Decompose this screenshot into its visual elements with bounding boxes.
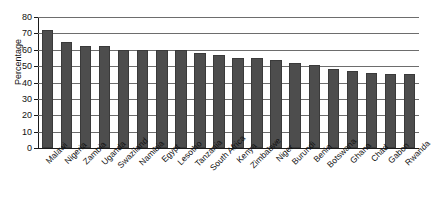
bar: [385, 74, 396, 148]
bar: [309, 65, 320, 149]
y-axis-tick-labels: 01020304050607080: [0, 17, 38, 148]
y-tick-label-20: 20: [22, 110, 32, 120]
plot-area: [38, 17, 419, 148]
bar: [61, 42, 72, 148]
bar: [80, 46, 91, 148]
y-tick-label-70: 70: [22, 28, 32, 38]
bar: [213, 55, 224, 148]
bar: [289, 63, 300, 148]
bar: [99, 46, 110, 148]
bar: [404, 74, 415, 148]
y-tick-label-50: 50: [22, 61, 32, 71]
bar: [175, 50, 186, 148]
y-tick-label-60: 60: [22, 45, 32, 55]
bar: [42, 30, 53, 148]
x-axis-tick-labels: MalawiNigeriaZambiaUgandaSwazilandNamibi…: [38, 150, 419, 219]
bar: [366, 73, 377, 148]
y-tick-label-30: 30: [22, 94, 32, 104]
bar: [137, 50, 148, 148]
bar: [194, 53, 205, 148]
bar: [328, 69, 339, 148]
bar-series: [38, 17, 419, 148]
bar: [251, 58, 262, 148]
bar: [118, 50, 129, 148]
y-tick-label-80: 80: [22, 12, 32, 22]
y-tick-label-0: 0: [27, 143, 32, 153]
y-tick-label-40: 40: [22, 78, 32, 88]
bar: [156, 50, 167, 148]
y-tick-label-10: 10: [22, 127, 32, 137]
y-tick-mark-0: [34, 148, 38, 149]
